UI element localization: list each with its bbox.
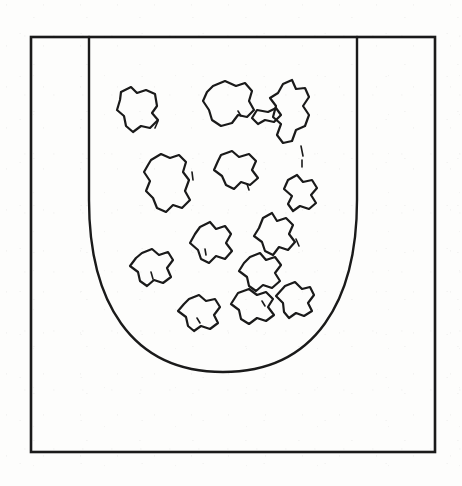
paper-background xyxy=(0,0,462,486)
ink-accent-mark xyxy=(205,249,206,255)
figure-container: Granular material contained in a U-shape… xyxy=(0,0,462,486)
line-drawing-figure: Granular material contained in a U-shape… xyxy=(0,0,462,486)
ink-accent-mark xyxy=(192,172,193,180)
